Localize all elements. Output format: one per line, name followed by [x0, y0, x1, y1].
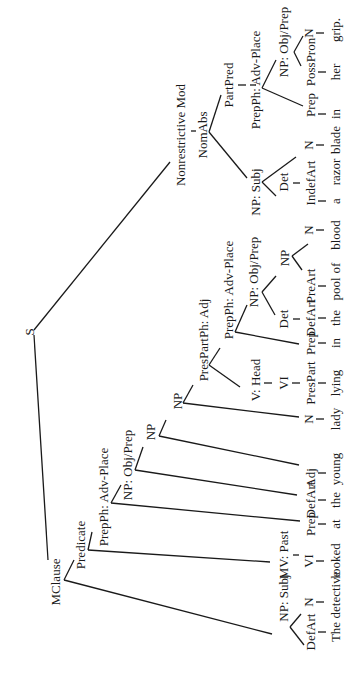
node-prepph-adv-place-2: PrepPh: Adv-Place: [222, 241, 235, 340]
word-razor: razor: [329, 159, 342, 186]
word-the-1: The: [329, 622, 342, 642]
word-lady: lady: [329, 408, 342, 430]
word-a: a: [329, 198, 342, 204]
pos-n-3: N: [302, 225, 315, 234]
pos-n-1: N: [302, 597, 315, 606]
word-of: of: [329, 263, 342, 274]
node-det-2: Det: [277, 173, 290, 192]
word-blade: blade: [329, 126, 342, 154]
node-np-1: NP: [144, 424, 157, 441]
pos-n-5: N: [302, 28, 315, 37]
node-v-head: V: Head: [249, 359, 262, 402]
node-prespartph-adj: PresPartPh: Adj: [197, 299, 210, 382]
word-in-2: in: [329, 109, 342, 119]
word-the-2: the: [329, 492, 342, 508]
node-nomabs: NomAbs: [196, 112, 209, 159]
node-np-obj-prep-2: NP: Obj/Prep: [247, 237, 260, 307]
pos-prep-3: Prep: [304, 93, 317, 117]
node-s: S: [23, 328, 36, 335]
pos-vi-1: VI: [302, 554, 315, 568]
pos-prespart: PresPart: [304, 361, 317, 404]
syntax-tree-diagram: S MClause Predicate PrepPh: Adv-Place NP…: [0, 0, 363, 684]
pos-indefart: IndefArt: [304, 161, 317, 206]
pos-adj: Adj: [304, 468, 317, 488]
word-looked: looked: [329, 543, 342, 578]
node-mv-past: MV: Past: [277, 531, 290, 580]
word-grip: grip.: [329, 18, 342, 42]
word-blood: blood: [329, 220, 342, 250]
node-np-2: NP: [171, 393, 184, 410]
word-the-3: the: [329, 310, 342, 326]
node-np-3: NP: [278, 250, 291, 267]
pos-defart-1: DefArt: [304, 614, 317, 651]
node-predicate: Predicate: [74, 521, 87, 569]
word-young: young: [329, 453, 342, 486]
pos-defart-3: DefArt: [304, 300, 317, 337]
word-at: at: [329, 519, 342, 528]
node-partpred: PartPred: [222, 63, 235, 108]
node-nonrestrictive-mod: Nonrestrictive Mod: [174, 84, 187, 186]
node-prepph-adv-place-1: PrepPh: Adv-Place: [97, 448, 110, 547]
node-np-subj-1: NP: Subj: [277, 574, 290, 621]
word-lying: lying: [329, 370, 342, 397]
word-her: her: [329, 64, 342, 81]
node-det-1: Det: [277, 310, 290, 329]
word-in-1: in: [329, 338, 342, 348]
node-np-obj-prep-1: NP: Obj/Prep: [121, 430, 134, 500]
pos-preart: PreArt: [304, 269, 317, 304]
node-mclause: MClause: [49, 559, 62, 606]
pos-n-2: N: [302, 414, 315, 423]
pos-n-4: N: [302, 140, 315, 149]
node-np-obj-prep-3: NP: Obj/Prep: [277, 7, 290, 77]
word-pool: pool: [329, 277, 342, 300]
node-prepph-adv-place-3: PrepPh: Adv-Place: [249, 31, 262, 130]
pos-vi-2: VI: [277, 376, 290, 390]
node-np-subj-2: NP: Subj: [249, 168, 262, 215]
pos-posspron: PossPron: [304, 38, 317, 86]
